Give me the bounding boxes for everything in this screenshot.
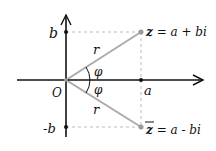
point-origin: [64, 78, 68, 82]
point-b: [64, 30, 68, 34]
label-z-conjugate: z = a - bi: [145, 123, 201, 137]
label-origin: O: [52, 86, 62, 100]
angle-arc-bottom: [86, 80, 90, 93]
vector-z-conjugate: [66, 80, 141, 127]
point-a: [139, 78, 143, 82]
complex-plane-diagram: b -b O a r r φ φ z = a + bi z = a - bi: [0, 0, 216, 151]
label-a: a: [144, 83, 152, 98]
label-b: b: [49, 25, 58, 41]
angle-arc-top: [86, 67, 90, 80]
vector-z: [66, 32, 141, 80]
label-phi-top: φ: [94, 65, 103, 79]
label-r-top: r: [93, 42, 100, 57]
point-z-conjugate: [139, 125, 144, 130]
label-z: z = a + bi: [145, 25, 207, 39]
point-neg-b: [64, 125, 68, 129]
label-r-bottom: r: [93, 102, 100, 117]
label-phi-bottom: φ: [94, 83, 103, 97]
point-z: [139, 30, 144, 35]
label-neg-b: -b: [43, 121, 56, 136]
